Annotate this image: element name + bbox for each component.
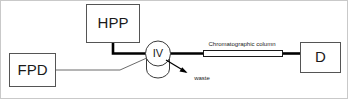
node-fpd-label: FPD xyxy=(18,61,48,78)
node-detector-label: D xyxy=(315,48,326,65)
node-iv-valve: IV xyxy=(146,41,171,78)
node-iv-label: IV xyxy=(153,47,164,59)
connector-fpd-to-iv xyxy=(55,57,149,70)
node-hpp-label: HPP xyxy=(98,14,129,31)
waste-label: waste xyxy=(193,75,210,81)
diagram-canvas: FPD HPP IV waste Chromatographic column … xyxy=(1,1,347,98)
process-flow-diagram: FPD HPP IV waste Chromatographic column … xyxy=(0,0,348,99)
node-chromatographic-column: Chromatographic column xyxy=(204,41,283,57)
connector-hpp-to-iv xyxy=(113,42,149,54)
column-label: Chromatographic column xyxy=(208,41,275,47)
column-body xyxy=(204,51,283,57)
annotation-waste: waste xyxy=(166,60,210,81)
